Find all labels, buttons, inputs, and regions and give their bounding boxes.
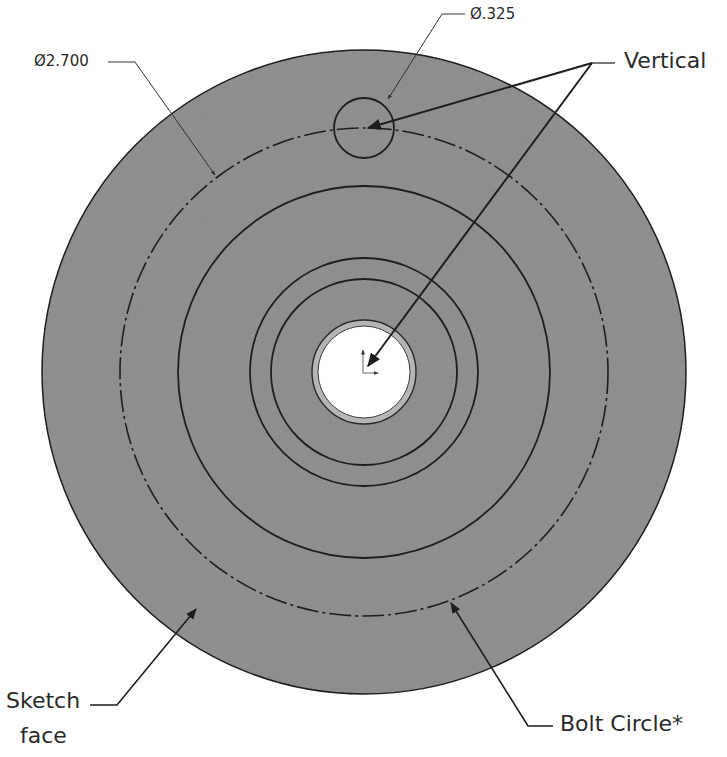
sketch-face-label-line2: face [20, 723, 67, 748]
bolt-circle-label: Bolt Circle* [560, 711, 683, 736]
vertical-callout-label: Vertical [624, 48, 706, 73]
drawing-canvas [0, 0, 727, 757]
bore-hole[interactable] [318, 326, 410, 418]
sketch-face-label-line1: Sketch [6, 688, 80, 713]
outer-diameter-label: Ø2.700 [34, 52, 89, 70]
hole-diameter-label: Ø.325 [470, 5, 515, 23]
